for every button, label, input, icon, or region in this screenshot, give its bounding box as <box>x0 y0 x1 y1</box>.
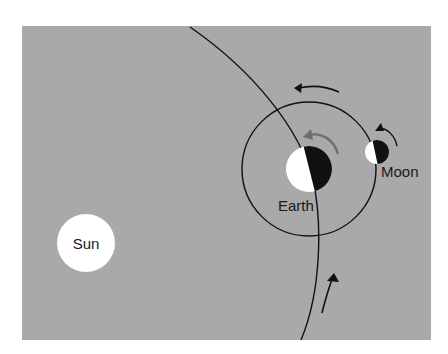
sun-label: Sun <box>73 235 100 252</box>
moon-label: Moon <box>381 163 419 180</box>
sun: Sun <box>57 214 115 272</box>
sun-earth-moon-diagram: Sun Earth Moon <box>0 0 448 354</box>
panel-background <box>22 26 431 340</box>
earth-label: Earth <box>278 197 314 214</box>
